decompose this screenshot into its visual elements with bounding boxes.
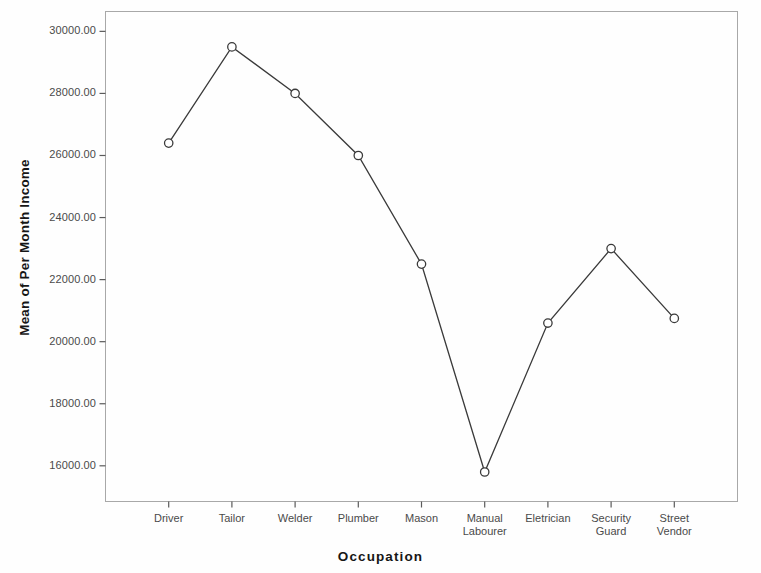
chart-figure: 30000.0028000.0026000.0024000.0022000.00…: [0, 0, 761, 573]
y-axis-title: Mean of Per Month Income: [17, 118, 32, 378]
x-axis-tick-labels: DriverTailorWelderPlumberMasonManual Lab…: [0, 0, 761, 573]
x-axis-title: Occupation: [0, 549, 761, 564]
x-tick-label: Street Vendor: [626, 512, 722, 538]
